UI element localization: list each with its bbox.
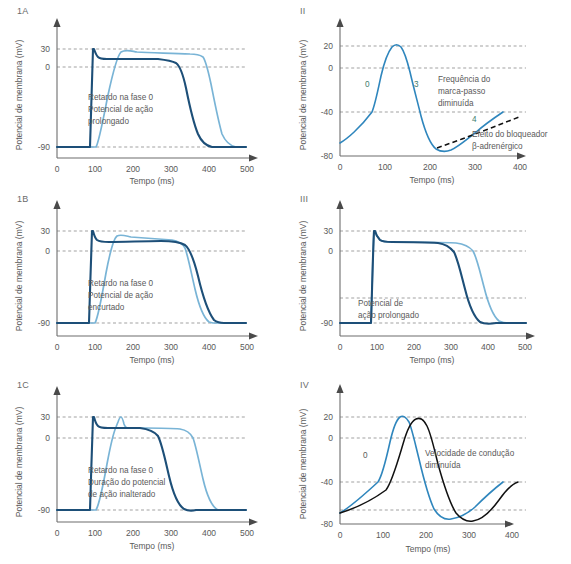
xtick-4: 400 (513, 162, 527, 172)
x-axis-arrow (249, 154, 258, 161)
x-axis-arrow (526, 332, 535, 339)
xtick-2: 200 (126, 342, 140, 352)
y-axis-title: Potencial de membrana (mV) (14, 221, 24, 332)
y-axis-title: Potencial de membrana (mV) (14, 40, 24, 151)
ytick-1: 0 (328, 433, 333, 443)
panel-1A: 1A 30 0 -90 0 100 (0, 0, 285, 188)
ytick-2: -90 (38, 505, 51, 515)
annotation-line-2: prolongado (88, 117, 129, 126)
curve-control (57, 231, 246, 323)
panel-II: II 20 0 -40 -80 0 100 200 (286, 0, 571, 188)
xtick-5: 500 (240, 528, 254, 538)
ytick-1: 0 (45, 62, 50, 72)
annotation-line-1: Duração do potencial (88, 478, 166, 487)
y-axis-title: Potencial de membrana (mV) (298, 221, 308, 332)
annotation-line-2: encurtado (88, 303, 125, 312)
xtick-4: 400 (202, 164, 216, 174)
xtick-0: 0 (55, 528, 60, 538)
ytick-1: 0 (45, 246, 50, 256)
ytick-3: -80 (321, 519, 334, 529)
annotation-line-2: diminuída (438, 99, 474, 108)
xtick-4: 400 (202, 342, 216, 352)
xtick-0: 0 (55, 342, 60, 352)
chart-1B: 30 0 -90 0 100 200 300 400 500 Tempo (ms… (0, 188, 285, 376)
xtick-1: 100 (376, 530, 390, 540)
x-axis-arrow (505, 520, 514, 527)
xtick-4: 400 (505, 530, 519, 540)
x-axis-title: Tempo (ms) (410, 175, 455, 185)
annotation-line-0: Retardo na fase 0 (88, 93, 154, 102)
xtick-2: 200 (419, 530, 433, 540)
x-axis-arrow (517, 152, 526, 159)
y-axis-title: Potencial de membrana (mV) (298, 40, 308, 151)
chart-1A: 30 0 -90 0 100 200 300 400 500 Tempo (ms… (0, 0, 285, 188)
panel-IV: IV 20 0 -40 -80 0 100 20 (286, 376, 571, 564)
ytick-1: 0 (328, 63, 333, 73)
annotation-line-1: marca-passo (438, 87, 486, 96)
x-axis-title: Tempo (ms) (406, 544, 451, 554)
ytick-1: 0 (328, 246, 333, 256)
xtick-3: 300 (468, 162, 482, 172)
panel-1B: 1B 30 0 -90 0 100 200 300 400 500 (0, 188, 285, 376)
annotation-line-1: diminuída (425, 461, 461, 470)
xtick-5: 500 (240, 342, 254, 352)
y-axis-title: Potencial de membrana (mV) (14, 407, 24, 518)
ytick-2: -90 (38, 142, 51, 152)
ytick-2: -40 (321, 477, 334, 487)
annotation-line-1: Potencial de ação (88, 291, 154, 300)
chart-IV: 20 0 -40 -80 0 100 200 300 400 Tempo (ms… (286, 376, 571, 564)
x-axis-title: Tempo (ms) (130, 176, 175, 186)
annotation-line-0: Retardo na fase 0 (88, 466, 154, 475)
xtick-2: 200 (423, 162, 437, 172)
xtick-3: 300 (462, 530, 476, 540)
xtick-1: 100 (378, 162, 392, 172)
annotation-line-0: Frequência do (438, 75, 491, 84)
annotation-line-4: β-adrenérgico (472, 142, 523, 151)
ytick-0: 30 (41, 226, 51, 236)
x-axis-title: Tempo (ms) (130, 355, 175, 365)
y-axis-arrow (336, 200, 343, 209)
xtick-5: 500 (518, 342, 532, 352)
x-axis-arrow (249, 518, 258, 525)
xtick-2: 200 (407, 342, 421, 352)
annotation-line-0: Potencial de (358, 299, 404, 308)
xtick-1: 100 (88, 164, 102, 174)
annotation-line-2: de ação inalterado (88, 490, 156, 499)
x-axis-title: Tempo (ms) (130, 541, 175, 551)
curve-control (340, 231, 526, 324)
phase-label-0: 0 (365, 80, 370, 89)
xtick-5: 500 (240, 164, 254, 174)
annotation-line-0: Retardo na fase 0 (88, 279, 154, 288)
panel-1C: 1C 30 0 -90 0 100 200 300 400 500 (0, 376, 285, 564)
y-axis-arrow (53, 18, 60, 27)
ytick-0: 20 (324, 41, 334, 51)
phase-label-0: 0 (363, 451, 368, 460)
xtick-0: 0 (338, 530, 343, 540)
ytick-0: 30 (41, 412, 51, 422)
xtick-0: 0 (55, 164, 60, 174)
annotation-line-0: Velocidade de condução (425, 449, 515, 458)
ytick-2: -40 (321, 107, 334, 117)
xtick-4: 400 (202, 528, 216, 538)
ytick-3: -80 (321, 151, 334, 161)
xtick-1: 100 (370, 342, 384, 352)
annotation-line-1: ação prolongado (358, 311, 419, 320)
xtick-0: 0 (338, 342, 343, 352)
ytick-1: 0 (45, 433, 50, 443)
panel-III: III 30 0 -90 0 100 200 300 400 (286, 188, 571, 376)
xtick-3: 300 (164, 164, 178, 174)
x-axis-arrow (249, 332, 258, 339)
xtick-3: 300 (164, 342, 178, 352)
action-potential-figure: 1A 30 0 -90 0 100 (0, 0, 571, 564)
y-axis-title: Potencial de membrana (mV) (298, 409, 308, 520)
y-axis-arrow (336, 18, 343, 27)
annotation-line-3: Efeito do bloqueador (472, 130, 548, 139)
xtick-1: 100 (88, 342, 102, 352)
xtick-3: 300 (164, 528, 178, 538)
xtick-2: 200 (126, 164, 140, 174)
ytick-0: 30 (324, 226, 334, 236)
xtick-4: 400 (481, 342, 495, 352)
phase-label-4: 4 (472, 115, 477, 124)
y-axis-arrow (53, 386, 60, 395)
xtick-1: 100 (88, 528, 102, 538)
